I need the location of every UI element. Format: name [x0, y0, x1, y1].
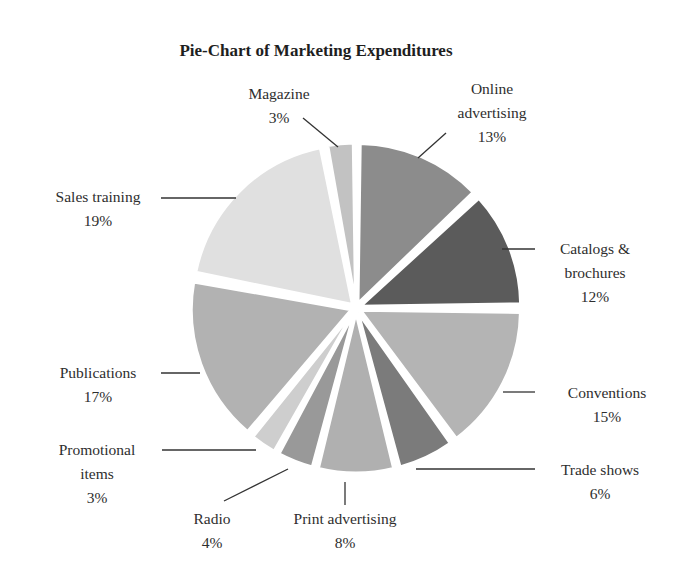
slice-label: Promotionalitems3%	[59, 441, 136, 506]
pie-slices	[191, 143, 520, 473]
slice-label: Trade shows6%	[561, 461, 639, 502]
slice-label: Onlineadvertising13%	[458, 80, 527, 145]
slice-percent: 3%	[269, 109, 290, 126]
leader-line	[224, 469, 288, 501]
slice-percent: 3%	[87, 489, 108, 506]
slice-name: items	[80, 465, 114, 482]
slice-name: advertising	[458, 104, 527, 121]
slice-label: Magazine3%	[248, 85, 309, 126]
slice-label: Radio4%	[193, 510, 230, 551]
slice-percent: 6%	[590, 485, 611, 502]
chart-title: Pie-Chart of Marketing Expenditures	[179, 41, 452, 60]
slice-percent: 12%	[581, 288, 610, 305]
slice-percent: 17%	[84, 388, 113, 405]
pie-slice-sales-training	[196, 148, 353, 305]
slice-name: brochures	[564, 264, 625, 281]
slice-name: Magazine	[248, 85, 309, 102]
slice-name: Sales training	[56, 188, 141, 205]
slice-percent: 19%	[84, 212, 113, 229]
slice-name: Trade shows	[561, 461, 639, 478]
slice-name: Publications	[60, 364, 137, 381]
slice-percent: 13%	[478, 128, 507, 145]
slice-percent: 4%	[202, 534, 223, 551]
pie-chart: Pie-Chart of Marketing Expenditures Onli…	[0, 0, 687, 587]
slice-name: Conventions	[568, 384, 646, 401]
leader-line	[303, 118, 338, 147]
slice-label: Catalogs &brochures12%	[560, 240, 630, 305]
slice-name: Radio	[193, 510, 230, 527]
slice-percent: 15%	[593, 408, 622, 425]
leader-line	[418, 133, 446, 158]
slice-label: Publications17%	[60, 364, 137, 405]
slice-name: Print advertising	[294, 510, 397, 527]
slice-name: Catalogs &	[560, 240, 630, 257]
slice-name: Promotional	[59, 441, 136, 458]
slice-label: Sales training19%	[56, 188, 141, 229]
slice-name: Online	[471, 80, 513, 97]
slice-label: Print advertising8%	[294, 510, 397, 551]
slice-percent: 8%	[335, 534, 356, 551]
slice-label: Conventions15%	[568, 384, 646, 425]
